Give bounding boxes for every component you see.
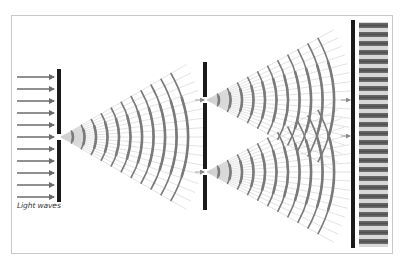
- dark-fringe-core: [359, 79, 388, 80]
- double-slit-diagram: Light waves: [0, 0, 405, 271]
- dark-fringe-core: [359, 97, 388, 98]
- dark-fringe-core: [359, 52, 388, 53]
- diagram-canvas: [0, 0, 405, 271]
- dark-fringe-core: [359, 70, 388, 71]
- double-slit-barrier: [203, 62, 207, 97]
- wavefront-arc-core: [229, 93, 230, 107]
- dark-fringe-core: [359, 160, 388, 161]
- dark-fringe-core: [359, 205, 388, 206]
- dark-fringe-core: [359, 223, 388, 224]
- dark-fringe-core: [359, 25, 388, 26]
- dark-fringe-core: [359, 88, 388, 89]
- wavefront-arc-core: [218, 168, 219, 175]
- wavefront-arc-core: [72, 133, 73, 140]
- double-slit-barrier: [203, 175, 207, 210]
- screen-barrier: [351, 20, 355, 248]
- dark-fringe-core: [359, 196, 388, 197]
- interference-pattern-screen: [359, 22, 388, 247]
- dark-fringe-core: [359, 151, 388, 152]
- dark-fringe-core: [359, 106, 388, 107]
- ray-line: [61, 82, 195, 137]
- dark-fringe-core: [359, 178, 388, 179]
- ray-line: [61, 137, 195, 192]
- wavefronts: [71, 38, 334, 233]
- dark-fringe-core: [359, 142, 388, 143]
- dark-fringe-core: [359, 34, 388, 35]
- dark-fringe-core: [359, 115, 388, 116]
- dark-fringe-core: [359, 133, 388, 134]
- dark-fringe-core: [359, 43, 388, 44]
- wavefront-arc-core: [218, 96, 219, 103]
- dark-fringe-core: [359, 187, 388, 188]
- dark-fringe-core: [359, 241, 388, 242]
- dark-fringe-core: [359, 214, 388, 215]
- single-slit-barrier: [57, 140, 61, 202]
- dark-fringe-core: [359, 232, 388, 233]
- wavefront-arc-core: [229, 165, 230, 179]
- wavefront-arc-core: [83, 130, 84, 145]
- dark-fringe-core: [359, 61, 388, 62]
- dark-fringe-core: [359, 169, 388, 170]
- double-slit-barrier: [203, 103, 207, 169]
- light-waves-label: Light waves: [17, 201, 61, 210]
- dark-fringe-core: [359, 124, 388, 125]
- single-slit-barrier: [57, 69, 61, 134]
